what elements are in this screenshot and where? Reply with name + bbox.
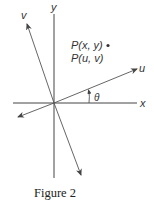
rotation-of-axes-diagram: y x u v θ P(x, y) P(u, v) Figure 2 <box>0 0 154 212</box>
theta-label: θ <box>94 92 100 103</box>
point-label-xy: P(x, y) <box>71 39 103 51</box>
point-label-uv: P(u, v) <box>71 52 104 64</box>
u-axis-label: u <box>139 62 145 74</box>
v-axis-negative <box>54 103 81 175</box>
v-axis-positive <box>27 24 54 103</box>
u-axis-negative <box>18 103 54 117</box>
x-axis-label: x <box>139 97 146 109</box>
theta-arc <box>89 90 90 103</box>
figure-caption: Figure 2 <box>34 186 76 200</box>
y-axis-label: y <box>50 1 58 13</box>
point-p-dot <box>106 44 109 47</box>
v-axis-label: v <box>21 9 28 21</box>
